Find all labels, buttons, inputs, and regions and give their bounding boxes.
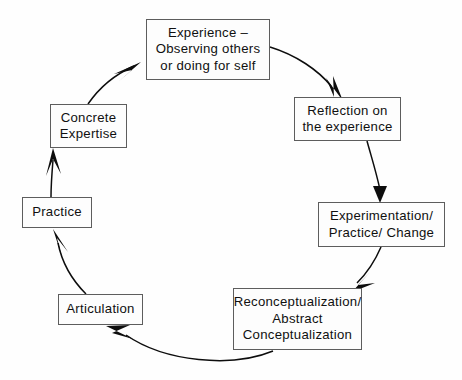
node-reflection: Reflection on the experience bbox=[294, 97, 401, 141]
node-practice-label: Practice bbox=[28, 204, 86, 221]
cycle-diagram: Experience – Observing others or doing f… bbox=[0, 0, 462, 380]
arrowhead-reflection-to-experimentation bbox=[373, 186, 387, 203]
node-experience: Experience – Observing others or doing f… bbox=[146, 19, 270, 80]
node-practice: Practice bbox=[22, 197, 92, 228]
arrow-reflection-to-experimentation bbox=[367, 141, 380, 190]
arrow-practice-to-expertise bbox=[51, 160, 53, 197]
node-reconceptualization: Reconceptualization/ Abstract Conceptual… bbox=[233, 288, 362, 350]
node-concrete-expertise-label: Concrete Expertise bbox=[56, 110, 121, 143]
arrow-expertise-to-experience bbox=[88, 66, 134, 104]
node-concrete-expertise: Concrete Expertise bbox=[50, 104, 127, 148]
arrow-experience-to-reflection bbox=[270, 47, 331, 86]
arrowhead-expertise-to-experience bbox=[114, 62, 141, 82]
node-experimentation-label: Experimentation/ Practice/ Change bbox=[325, 208, 438, 241]
arrow-articulation-to-practice bbox=[58, 243, 86, 294]
arrow-experimentation-to-reconceptual bbox=[357, 247, 381, 283]
node-reconceptualization-label: Reconceptualization/ Abstract Conceptual… bbox=[230, 294, 366, 344]
node-articulation-label: Articulation bbox=[62, 301, 138, 318]
node-articulation: Articulation bbox=[58, 294, 143, 325]
node-experimentation: Experimentation/ Practice/ Change bbox=[318, 202, 445, 247]
node-experience-label: Experience – Observing others or doing f… bbox=[152, 25, 265, 75]
node-reflection-label: Reflection on the experience bbox=[298, 103, 396, 136]
